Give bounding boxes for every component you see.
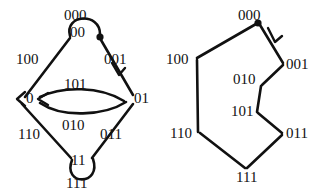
- cycle-label-001: 001: [286, 57, 309, 72]
- cycle-label-000: 000: [238, 8, 261, 23]
- edge-001: [101, 40, 133, 95]
- cycle-edge-111-110: [200, 133, 245, 168]
- node-label-01: 01: [134, 91, 149, 106]
- cycle-edge-001-010: [262, 65, 283, 85]
- edge-label-111: 111: [66, 176, 87, 191]
- cycle-edge-101-011: [258, 113, 282, 133]
- edge-label-011: 011: [100, 127, 122, 142]
- cycle-edge-010-101: [257, 86, 261, 112]
- cycle-label-010: 010: [233, 72, 256, 87]
- edge-010: [40, 102, 126, 113]
- node-label-11: 11: [71, 153, 85, 168]
- node-label-0: 0: [26, 91, 34, 106]
- figure-drawing: [0, 0, 327, 194]
- node-label-00: 00: [70, 25, 85, 40]
- edge-label-000: 000: [64, 8, 87, 23]
- edge-label-101: 101: [64, 77, 87, 92]
- cycle-edge-011-111: [247, 135, 282, 168]
- cycle-label-101: 101: [231, 104, 254, 119]
- cycle-edge-000-001: [260, 25, 283, 63]
- edge-label-010: 010: [62, 118, 85, 133]
- right-panel-cycle: [197, 19, 283, 168]
- edge-label-100: 100: [16, 52, 39, 67]
- cycle-edge-000-100: [197, 24, 256, 58]
- edge-label-001: 001: [104, 52, 127, 67]
- cycle-label-011: 011: [286, 126, 308, 141]
- cycle-label-100: 100: [166, 52, 189, 67]
- figure-container: 000 00 100 001 101 0 01 010 110 011 11 1…: [0, 0, 327, 194]
- cycle-label-111: 111: [236, 170, 257, 185]
- cycle-label-110: 110: [170, 126, 192, 141]
- cycle-edge-110-100: [197, 60, 198, 132]
- edge-label-110: 110: [18, 127, 40, 142]
